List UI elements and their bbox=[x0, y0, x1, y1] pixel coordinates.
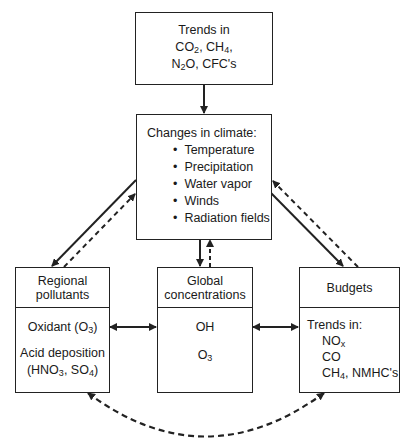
trends-line3: N2O, CFC's bbox=[136, 56, 272, 73]
climate-item: Temperature bbox=[173, 142, 271, 159]
global-box: Global concentrations OH O3 bbox=[157, 267, 253, 393]
climate-box: Changes in climate: Temperature Precipit… bbox=[136, 114, 272, 240]
budgets-co: CO bbox=[307, 349, 399, 365]
regional-oxidant: Oxidant (O3) bbox=[16, 319, 109, 336]
global-o3: O3 bbox=[158, 347, 252, 364]
regional-acid-species: (HNO3, SO4) bbox=[16, 362, 109, 379]
trends-line1: Trends in bbox=[136, 22, 272, 39]
regional-header: Regional pollutants bbox=[16, 268, 109, 308]
arrow-climate-to-regional bbox=[52, 180, 136, 266]
regional-body: Oxidant (O3) Acid deposition (HNO3, SO4) bbox=[16, 308, 109, 379]
budgets-header: Budgets bbox=[300, 268, 399, 308]
budgets-ch4-nmhc: CH4, NMHC's bbox=[307, 365, 399, 381]
trends-line2: CO2, CH4, bbox=[136, 39, 272, 56]
climate-item: Water vapor bbox=[173, 176, 271, 193]
budgets-box: Budgets Trends in: NOx CO CH4, NMHC's bbox=[299, 267, 400, 393]
global-oh: OH bbox=[158, 319, 252, 336]
climate-list: Temperature Precipitation Water vapor Wi… bbox=[147, 142, 271, 227]
trends-box: Trends in CO2, CH4, N2O, CFC's bbox=[135, 12, 273, 85]
arrow-climate-to-budgets bbox=[271, 193, 343, 266]
arrow-regional-to-climate bbox=[64, 194, 135, 267]
climate-item: Radiation fields bbox=[173, 210, 271, 227]
climate-item: Precipitation bbox=[173, 159, 271, 176]
climate-item: Winds bbox=[173, 193, 271, 210]
regional-acid: Acid deposition bbox=[16, 345, 109, 362]
global-header: Global concentrations bbox=[158, 268, 252, 308]
global-body: OH O3 bbox=[158, 308, 252, 364]
budgets-nox: NOx bbox=[307, 333, 399, 349]
budgets-body: Trends in: NOx CO CH4, NMHC's bbox=[300, 308, 399, 381]
regional-box: Regional pollutants Oxidant (O3) Acid de… bbox=[15, 267, 110, 393]
arrow-budgets-to-climate bbox=[273, 181, 358, 267]
climate-title: Changes in climate: bbox=[147, 125, 271, 142]
arrow-regional-budgets-curve bbox=[88, 393, 324, 437]
budgets-title: Trends in: bbox=[307, 317, 399, 333]
